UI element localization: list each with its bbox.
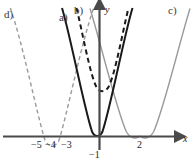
x-axis-label: x — [183, 134, 187, 144]
curve-c — [90, 9, 190, 138]
curve-label-a: a) — [59, 12, 68, 23]
x-tick-label-neg4: −4 — [45, 140, 56, 150]
y-tick-label-neg1: −1 — [89, 150, 100, 160]
x-tick-label-neg5: −5 — [31, 140, 42, 150]
curve-label-c: c) — [168, 5, 177, 16]
y-axis-label: y — [105, 5, 109, 15]
plot-canvas — [0, 0, 192, 168]
curve-a — [62, 8, 133, 136]
curve-b — [77, 8, 129, 91]
x-tick-label-neg3: −3 — [61, 140, 72, 150]
parabolas-figure: d) a) b) c) y x −5 −4 −3 2 −1 — [0, 0, 192, 168]
x-tick-label-2: 2 — [137, 140, 142, 150]
curve-label-d: d) — [4, 9, 13, 20]
curve-label-b: b) — [74, 5, 83, 16]
